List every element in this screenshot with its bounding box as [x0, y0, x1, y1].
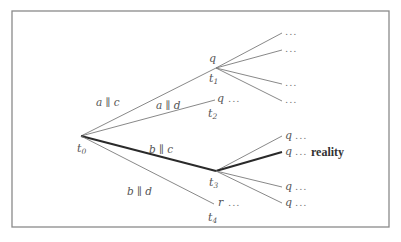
edge-t3-leaf1 — [216, 136, 282, 171]
leaf-t3-4-dots: ... — [295, 197, 308, 208]
leaf-t1-3-dots: ... — [285, 77, 298, 88]
node-dots-t4: ... — [228, 197, 241, 208]
node-label-t4: t4 — [208, 211, 217, 225]
edge-t3-leaf4 — [216, 171, 282, 203]
edge-t1-leaf3 — [216, 68, 282, 84]
edge-label-a-c: a ∥ c — [96, 96, 120, 108]
node-state-t1: q — [209, 52, 216, 65]
node-label-t1: t1 — [209, 72, 218, 86]
branching-time-diagram: a ∥ c a ∥ d b ∥ c b ∥ d t0 q t1 q ... t2… — [0, 0, 401, 242]
edge-t3-leaf3 — [216, 171, 282, 187]
leaf-t1-4-dots: ... — [285, 94, 298, 105]
node-label-t3: t3 — [209, 176, 218, 190]
leaf-t3-3-state: q — [285, 180, 292, 193]
node-state-t4: r — [218, 196, 224, 209]
node-label-t2: t2 — [208, 107, 217, 121]
reality-label: reality — [311, 145, 344, 159]
leaf-t3-1-state: q — [285, 129, 292, 142]
edge-label-a-d: a ∥ d — [156, 99, 181, 111]
node-label-t0: t0 — [77, 142, 86, 156]
edge-t1-leaf4 — [216, 68, 282, 101]
leaf-t1-1-dots: ... — [285, 26, 298, 37]
edge-label-b-c: b ∥ c — [149, 143, 173, 155]
leaf-t1-2-dots: ... — [285, 43, 298, 54]
diagram-frame — [12, 11, 389, 227]
node-state-t2: q — [217, 92, 224, 105]
leaf-t3-2-state: q — [285, 145, 292, 158]
leaf-t3-2-dots: ... — [295, 146, 308, 157]
node-dots-t2: ... — [228, 93, 241, 104]
edge-t1-leaf2 — [216, 50, 282, 68]
edge-t3-leaf2-reality — [216, 152, 282, 171]
leaf-t3-3-dots: ... — [295, 181, 308, 192]
leaf-t3-4-state: q — [285, 196, 292, 209]
leaf-t3-1-dots: ... — [295, 130, 308, 141]
edge-label-b-d: b ∥ d — [127, 185, 152, 197]
edge-t1-leaf1 — [216, 33, 282, 68]
